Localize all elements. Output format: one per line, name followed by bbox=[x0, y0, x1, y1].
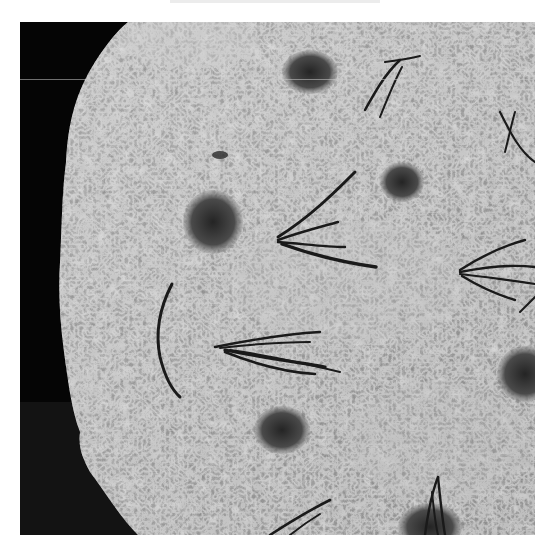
focaccia-photo bbox=[20, 22, 535, 535]
bread-surface bbox=[20, 22, 535, 535]
horizontal-artifact-line bbox=[20, 79, 535, 80]
photo-illustration bbox=[20, 22, 535, 535]
cropped-caption-remnant bbox=[170, 0, 380, 3]
page bbox=[0, 0, 554, 557]
